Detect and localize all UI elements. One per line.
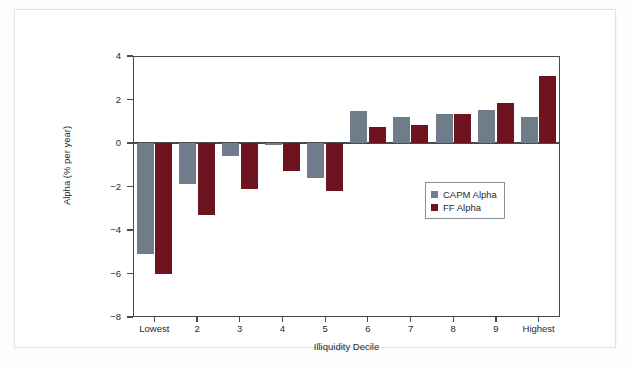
legend-label-ff: FF Alpha xyxy=(443,202,481,213)
y-tick-label: −4 xyxy=(93,224,121,235)
bar-ff-4 xyxy=(326,143,343,191)
bar-capm-2 xyxy=(222,143,239,156)
y-tick-label: −8 xyxy=(93,311,121,322)
bar-ff-2 xyxy=(241,143,258,189)
x-tick-mark xyxy=(410,317,411,322)
y-tick-label: 2 xyxy=(93,94,121,105)
bar-ff-7 xyxy=(454,114,471,143)
bar-capm-6 xyxy=(393,117,410,143)
y-tick-label: −6 xyxy=(93,268,121,279)
x-tick-label: Highest xyxy=(509,323,569,334)
x-tick-mark xyxy=(154,317,155,322)
bar-capm-9 xyxy=(521,117,538,143)
bar-ff-3 xyxy=(283,143,300,171)
bar-capm-7 xyxy=(436,114,453,143)
legend-item-ff: FF Alpha xyxy=(431,201,497,213)
x-tick-mark xyxy=(239,317,240,322)
x-tick-mark xyxy=(495,317,496,322)
legend-swatch-ff xyxy=(431,204,438,211)
bar-capm-3 xyxy=(265,143,282,145)
bar-ff-1 xyxy=(198,143,215,215)
x-tick-mark xyxy=(453,317,454,322)
bar-ff-9 xyxy=(539,76,556,143)
y-tick-label: 4 xyxy=(93,50,121,61)
y-tick-label: 0 xyxy=(93,137,121,148)
chart-legend: CAPM Alpha FF Alpha xyxy=(425,182,505,219)
figure-root: Alpha (% per year) 420−2−4−6−8 Lowest234… xyxy=(0,0,629,370)
y-tick-label: −2 xyxy=(93,181,121,192)
bar-capm-0 xyxy=(137,143,154,254)
bar-ff-8 xyxy=(497,103,514,143)
x-tick-mark xyxy=(325,317,326,322)
bar-ff-5 xyxy=(369,127,386,143)
x-tick-mark xyxy=(367,317,368,322)
bar-ff-6 xyxy=(411,125,428,143)
x-tick-mark xyxy=(196,317,197,322)
x-tick-mark xyxy=(538,317,539,322)
legend-swatch-capm xyxy=(431,191,438,198)
bar-capm-5 xyxy=(350,111,367,143)
legend-item-capm: CAPM Alpha xyxy=(431,188,497,200)
legend-label-capm: CAPM Alpha xyxy=(443,189,497,200)
bar-capm-4 xyxy=(307,143,324,178)
y-axis-title: Alpha (% per year) xyxy=(61,106,72,226)
x-axis-title: Illiquidity Decile xyxy=(133,341,560,352)
bar-capm-8 xyxy=(478,110,495,143)
bar-ff-0 xyxy=(155,143,172,274)
bar-capm-1 xyxy=(179,143,196,184)
figure-page: Alpha (% per year) 420−2−4−6−8 Lowest234… xyxy=(14,9,616,348)
x-tick-mark xyxy=(282,317,283,322)
